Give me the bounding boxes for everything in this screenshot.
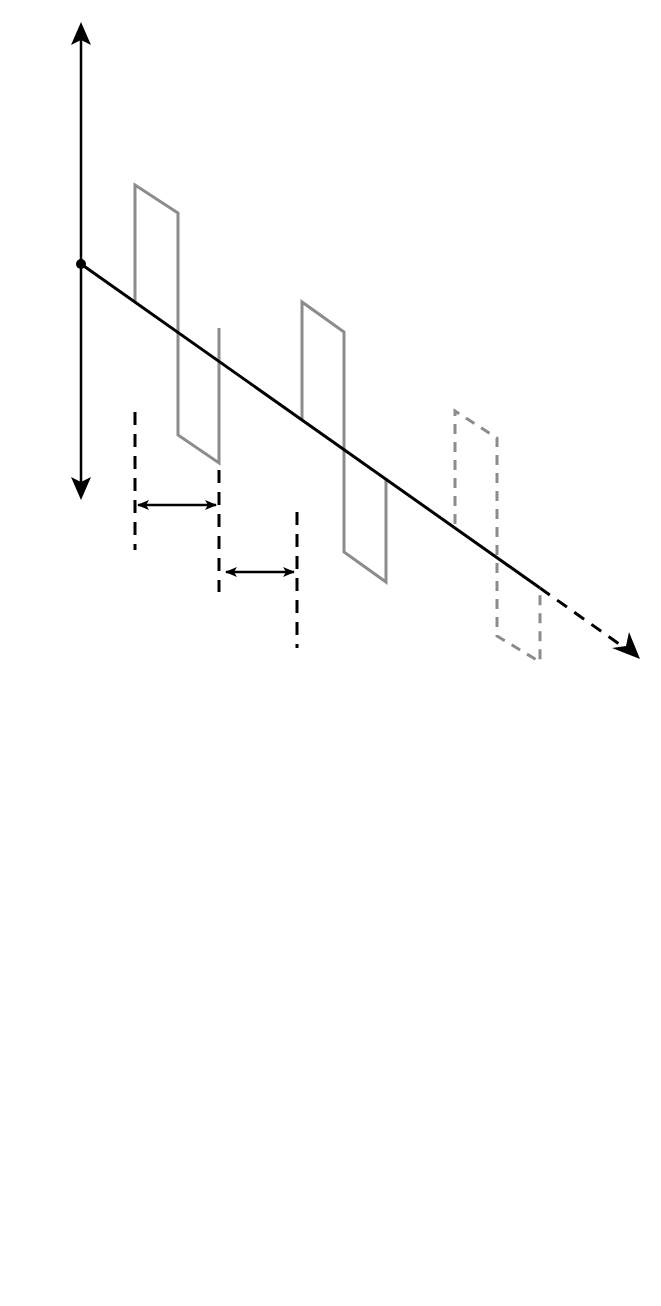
pulse-1 [135, 185, 219, 463]
panel-a-pulses [135, 185, 540, 662]
panel-a-time-arrow-icon [612, 632, 640, 659]
panel-a-time-axis-continuation [540, 588, 622, 646]
panel-a [71, 22, 640, 662]
panel-a-time-axis [81, 264, 540, 588]
pulse-2 [302, 302, 386, 582]
stimulation-diagram [0, 0, 661, 1306]
panel-a-dimension-lines [135, 412, 297, 648]
